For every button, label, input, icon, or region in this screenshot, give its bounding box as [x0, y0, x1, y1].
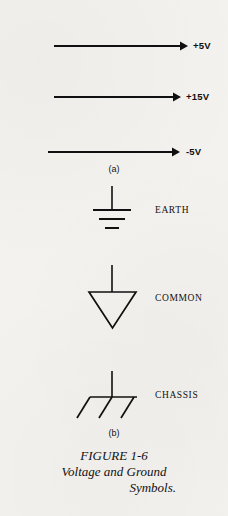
voltage-arrow-plus5v — [54, 42, 188, 51]
common-ground-symbol — [89, 265, 136, 328]
chassis-ground-symbol — [77, 371, 137, 418]
caption-line-3: Symbols. — [0, 480, 228, 496]
common-label: COMMON — [155, 293, 202, 303]
earth-ground-symbol — [93, 186, 131, 228]
figure-line-art — [0, 0, 228, 516]
chassis-label: CHASSIS — [155, 390, 198, 400]
voltage-label-plus15v: +15V — [186, 91, 209, 102]
group-label-b-text: (b) — [109, 428, 120, 438]
voltage-label-plus5v: +5V — [193, 40, 211, 51]
group-label-a-text: (a) — [109, 164, 120, 174]
figure-caption: FIGURE 1-6 Voltage and Ground Symbols. — [0, 448, 228, 496]
voltage-label-minus5v: -5V — [186, 146, 201, 157]
earth-label: EARTH — [155, 205, 189, 215]
voltage-arrow-minus5v — [48, 148, 180, 157]
caption-line-1: FIGURE 1-6 — [0, 448, 228, 464]
figure-page: +5V +15V -5V (a) EARTH COMMON CHASSIS (b… — [0, 0, 228, 516]
caption-line-2: Voltage and Ground — [0, 464, 228, 480]
group-label-a: (a) — [114, 164, 228, 174]
group-label-b: (b) — [114, 428, 228, 438]
voltage-arrow-plus15v — [54, 93, 181, 102]
